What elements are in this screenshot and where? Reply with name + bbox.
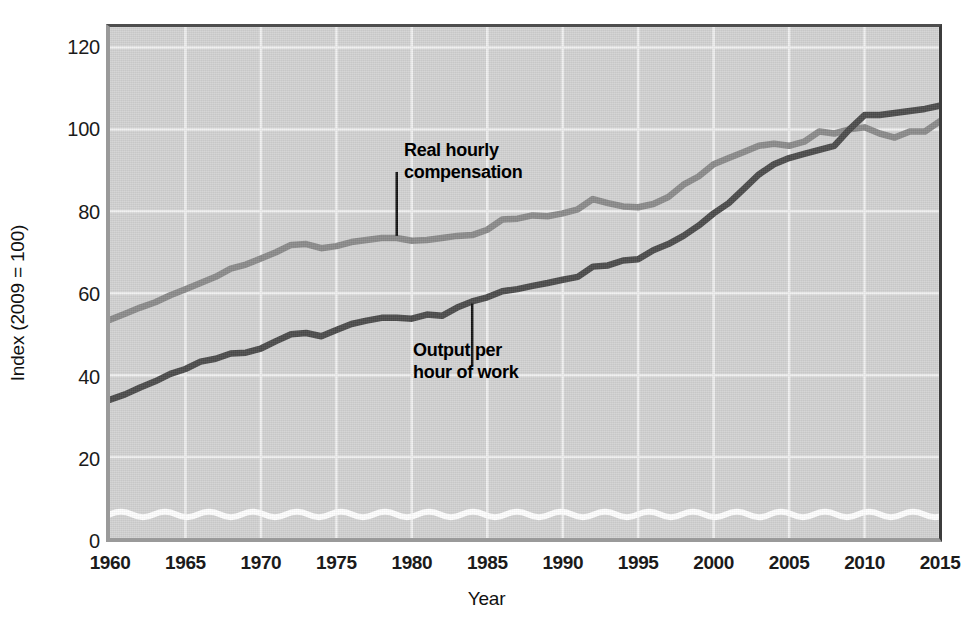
x-tick-1980: 1980 xyxy=(377,552,447,574)
axis-break-wave xyxy=(110,512,940,518)
x-tick-2005: 2005 xyxy=(754,552,824,574)
x-tick-2010: 2010 xyxy=(830,552,900,574)
series-lines xyxy=(110,106,940,400)
x-tick-1990: 1990 xyxy=(528,552,598,574)
x-tick-1960: 1960 xyxy=(75,552,145,574)
line-series-1 xyxy=(110,106,940,400)
y-tick-100: 100 xyxy=(42,118,100,141)
annotation-output-per-hour-of-work: Output per hour of work xyxy=(413,340,518,384)
x-tick-1975: 1975 xyxy=(301,552,371,574)
plot-area xyxy=(106,24,942,542)
plot-svg xyxy=(110,27,940,539)
annotation-label-line2: compensation xyxy=(404,162,522,184)
x-tick-1995: 1995 xyxy=(603,552,673,574)
x-axis-tick-labels: 1960196519701975198019851990199520002005… xyxy=(0,552,973,582)
x-tick-1965: 1965 xyxy=(150,552,220,574)
x-tick-1970: 1970 xyxy=(226,552,296,574)
annotation-label-line1: Real hourly xyxy=(404,140,522,162)
annotation-real-hourly-compensation: Real hourly compensation xyxy=(404,140,522,184)
annotation-leader-lines xyxy=(397,172,472,365)
y-tick-0: 0 xyxy=(42,530,100,553)
gridlines xyxy=(110,27,940,539)
y-tick-60: 60 xyxy=(42,283,100,306)
annotation-label-line2: hour of work xyxy=(413,362,518,384)
x-tick-2000: 2000 xyxy=(679,552,749,574)
annotation-label-line1: Output per xyxy=(413,340,518,362)
y-axis-title: Index (2009 = 100) xyxy=(7,153,29,453)
x-tick-1985: 1985 xyxy=(452,552,522,574)
y-axis-tick-labels: 120 100 80 60 40 20 0 xyxy=(38,0,100,628)
y-tick-120: 120 xyxy=(42,36,100,59)
chart-figure: 120 100 80 60 40 20 0 Index (2009 = 100)… xyxy=(0,0,973,628)
y-tick-40: 40 xyxy=(42,366,100,389)
y-tick-80: 80 xyxy=(42,201,100,224)
y-tick-20: 20 xyxy=(42,448,100,471)
x-axis-title: Year xyxy=(0,588,973,610)
x-tick-2015: 2015 xyxy=(905,552,973,574)
